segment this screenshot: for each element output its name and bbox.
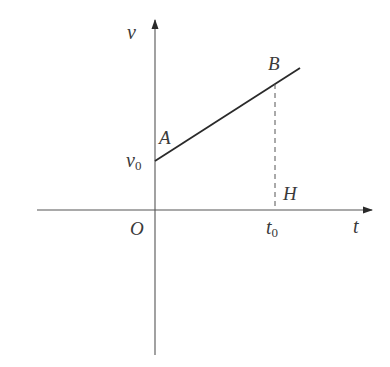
v-axis-label: v — [127, 21, 136, 43]
vt-diagram: v t O A B H v0 t0 — [0, 0, 390, 367]
t0-label: t0 — [266, 216, 278, 240]
velocity-line — [155, 68, 300, 161]
t0-sub: 0 — [272, 225, 279, 240]
v0-label: v0 — [126, 149, 141, 173]
t-axis-label: t — [353, 215, 359, 237]
origin-label: O — [130, 218, 144, 239]
v0-sub: 0 — [135, 158, 142, 173]
point-a-label: A — [157, 127, 171, 148]
point-b-label: B — [268, 53, 280, 74]
point-h-label: H — [282, 183, 298, 204]
v0-main: v — [126, 149, 135, 171]
